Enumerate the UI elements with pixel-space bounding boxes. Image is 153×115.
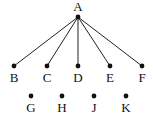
node-c: C	[43, 64, 52, 85]
node-dot	[92, 94, 97, 99]
node-e: E	[106, 64, 114, 85]
edge-a-b	[14, 17, 78, 66]
node-dot	[60, 94, 65, 99]
node-b: B	[10, 64, 19, 85]
node-label: K	[121, 100, 131, 115]
edge-a-e	[78, 17, 110, 66]
node-label: F	[138, 70, 145, 85]
node-dot	[45, 64, 50, 69]
edge-a-f	[78, 17, 142, 66]
node-dot	[29, 94, 34, 99]
node-label: J	[91, 100, 96, 115]
node-label: C	[43, 70, 52, 85]
node-label: H	[57, 100, 66, 115]
edge-a-c	[47, 17, 78, 66]
node-label: E	[106, 70, 114, 85]
tree-diagram: ABCDEFGHJK	[0, 0, 153, 115]
node-j: J	[91, 94, 96, 115]
node-dot	[124, 94, 129, 99]
node-d: D	[73, 64, 82, 85]
node-label: D	[73, 70, 82, 85]
node-dot	[76, 64, 81, 69]
node-label: A	[73, 0, 83, 14]
node-dot	[76, 15, 81, 20]
node-label: B	[10, 70, 19, 85]
node-a: A	[73, 0, 83, 19]
node-f: F	[138, 64, 145, 85]
diagram-svg: ABCDEFGHJK	[0, 0, 153, 115]
node-k: K	[121, 94, 131, 115]
node-h: H	[57, 94, 66, 115]
node-g: G	[26, 94, 35, 115]
node-dot	[108, 64, 113, 69]
edges-group	[14, 17, 142, 66]
node-dot	[140, 64, 145, 69]
node-dot	[12, 64, 17, 69]
node-label: G	[26, 100, 35, 115]
